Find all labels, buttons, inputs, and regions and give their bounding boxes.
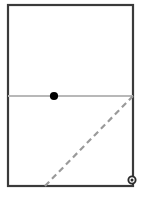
figure-canvas bbox=[0, 0, 142, 197]
solid-point-marker bbox=[50, 92, 58, 100]
ring-marker-core-icon bbox=[131, 179, 134, 182]
diagram-svg bbox=[0, 0, 142, 197]
